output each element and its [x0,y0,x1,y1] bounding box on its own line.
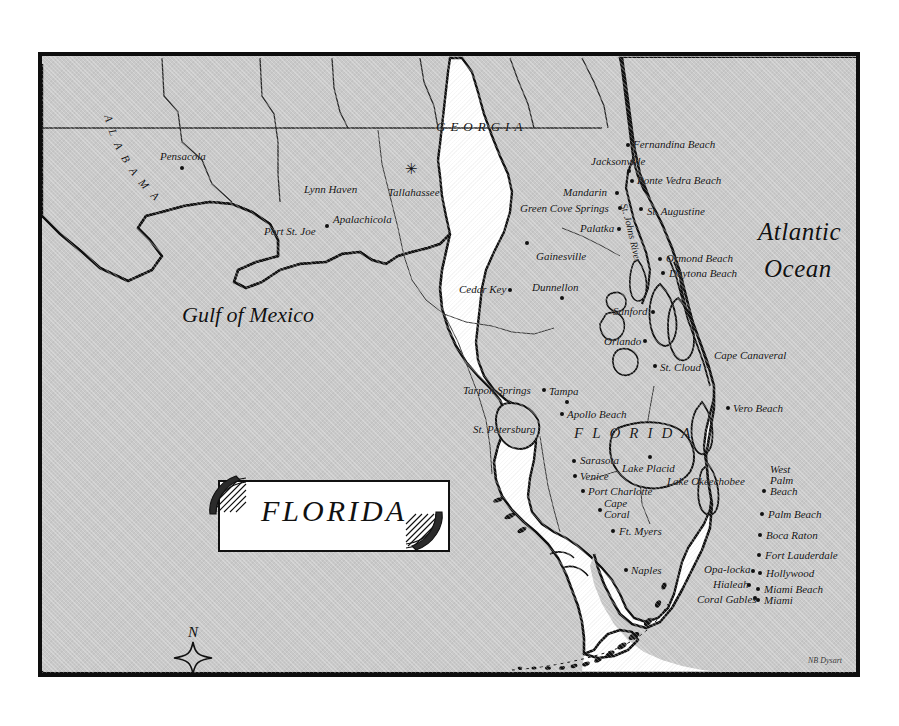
city-label-palatka: Palatka [580,223,614,234]
capital-star-icon: ✳ [404,162,418,176]
city-label-lynn-haven: Lynn Haven [304,184,357,195]
city-dot-cedar-key [508,288,512,292]
city-dot-palatka [617,227,621,231]
city-dot-st-cloud [653,364,657,368]
compass-north-label: N [170,624,216,640]
city-label-orlando: Orlando [604,336,641,347]
city-label-vero-beach: Vero Beach [733,403,783,414]
city-label-cape-coral: Cape Coral [604,498,630,520]
city-dot-jacksonville [627,169,631,173]
city-label-boca-raton: Boca Raton [766,530,818,541]
city-label-coral-gables: Coral Gables [697,594,757,605]
city-label-fort-lauderdale: Fort Lauderdale [765,550,838,561]
city-dot-ponte-vedra-beach [630,179,634,183]
city-dot-tampa [565,400,569,404]
city-dot-hialeah [747,583,751,587]
city-label-sarasota: Sarasota [580,455,619,466]
state-line-b [332,58,348,128]
city-dot-green-cove-springs [618,206,622,210]
city-dot-tarpon-springs [542,388,546,392]
svg-text:A L A B A M A: A L A B A M A [102,112,164,204]
city-dot-pensacola [180,166,184,170]
georgia-label: GEORGIA [436,120,527,133]
city-label-st-petersburg: St. Petersburg [473,424,536,435]
city-label-mandarin: Mandarin [563,187,607,198]
city-label-lake-placid: Lake Placid [622,463,675,474]
city-dot-apollo-beach [560,412,564,416]
compass-rose: N [170,624,216,677]
gulf-of-mexico-label: Gulf of Mexico [182,304,314,326]
city-label-opa-locka: Opa-locka [704,564,750,575]
city-label-tarpon-springs: Tarpon Springs [463,385,531,396]
city-dot-port-st-joe [325,224,329,228]
city-dot-venice [573,474,577,478]
city-dot-dunnellon [560,296,564,300]
interior-line-3 [492,326,554,334]
map-attribution: NB Dysart [808,657,842,665]
florida-map-page: Gulf of Mexico Atlantic Ocean GEORGIA A … [0,0,899,726]
city-label-palm-beach: Palm Beach [768,509,821,520]
city-label-cape-canaveral: Cape Canaveral [714,350,786,361]
city-label-miami-beach: Miami Beach [764,584,823,595]
shell-ornament-top-left-icon [206,472,252,518]
city-dot-mandarin [615,191,619,195]
city-dot-sanford [651,310,655,314]
city-dot-gainesville [525,241,529,245]
city-label-port-st-joe: Port St. Joe [264,226,316,237]
city-dot-boca-raton [758,533,762,537]
city-dot-west-palm-beach [762,489,766,493]
atlantic-ocean-label-line1: Atlantic [758,219,841,244]
city-label-dunnellon: Dunnellon [532,282,578,293]
city-label-venice: Venice [580,471,609,482]
city-dot-vero-beach [726,406,730,410]
city-label-fernandina-beach: Fernandina Beach [633,139,715,150]
city-dot-miami [756,598,760,602]
lake-okeechobee-label: Lake Okeechobee [667,476,745,487]
city-dot-palm-beach [760,512,764,516]
state-line-d [510,58,534,128]
city-dot-lake-placid [648,455,652,459]
city-label-daytona-beach: Daytona Beach [669,268,737,279]
city-label-pensacola: Pensacola [160,151,206,162]
city-dot-ormond-beach [658,257,662,261]
city-label-tampa: Tampa [549,386,579,397]
atlantic-ocean-label-line2: Ocean [764,256,832,281]
city-dot-port-charlotte [581,489,585,493]
state-line-a [260,58,280,202]
city-dot-fernandina-beach [626,143,630,147]
city-label-tallahassee: Tallahassee [388,187,440,198]
city-label-apalachicola: Apalachicola [333,214,392,225]
city-dot-miami-beach [756,587,760,591]
city-dot-sarasota [572,459,576,463]
city-label-naples: Naples [631,565,662,576]
florida-state-label: FLORIDA [574,426,700,441]
city-dot-orlando [643,339,647,343]
city-label-west-palm-beach: West Palm Beach [770,464,797,498]
city-label-green-cove-springs: Green Cove Springs [520,203,609,214]
city-label-miami: Miami [764,595,793,606]
city-dot-naples [624,568,628,572]
city-label-jacksonville: Jacksonville [591,156,645,167]
city-label-hialeah: Hialeah [713,579,748,590]
city-dot-fort-lauderdale [757,553,761,557]
city-label-port-charlotte: Port Charlotte [588,486,652,497]
city-dot-hollywood [758,571,762,575]
city-label-cedar-key: Cedar Key [459,284,506,295]
city-label-gainesville: Gainesville [536,251,586,262]
city-label-ft-myers: Ft. Myers [619,526,662,537]
city-label-apollo-beach: Apollo Beach [567,409,627,420]
svg-text:St. Johns River: St. Johns River [619,202,644,263]
compass-star-icon [170,640,216,676]
alabama-label: A L A B A M A [96,108,166,204]
city-label-ponte-vedra-beach: Ponte Vedra Beach [637,175,721,186]
shell-ornament-bottom-right-icon [400,508,446,554]
city-dot-ft-myers [611,529,615,533]
interior-line-4 [540,436,560,532]
city-dot-cape-coral [598,508,602,512]
city-dot-st-augustine [639,207,643,211]
city-label-sanford: Sanford [613,306,647,317]
city-label-st-augustine: St. Augustine [647,206,705,217]
city-label-hollywood: Hollywood [766,568,814,579]
state-line-e [582,58,608,128]
map-frame: Gulf of Mexico Atlantic Ocean GEORGIA A … [38,52,860,677]
